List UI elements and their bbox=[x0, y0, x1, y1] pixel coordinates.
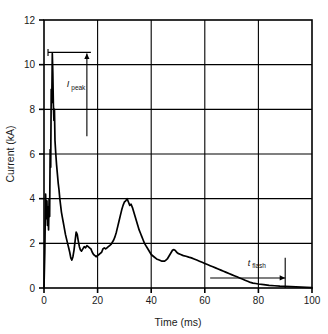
y-tick-label: 4 bbox=[29, 193, 35, 204]
y-tick-label: 10 bbox=[24, 59, 36, 70]
x-tick-label: 60 bbox=[199, 295, 211, 306]
y-tick-label: 8 bbox=[29, 104, 35, 115]
figure-container: 020406080100 024681012 Ipeaktflash Time … bbox=[0, 0, 328, 334]
current-vs-time-chart: 020406080100 024681012 Ipeaktflash Time … bbox=[0, 0, 328, 334]
y-tick-label: 0 bbox=[29, 283, 35, 294]
x-axis-title: Time (ms) bbox=[155, 316, 202, 328]
y-tick-label: 2 bbox=[29, 238, 35, 249]
x-tick-label: 0 bbox=[41, 295, 47, 306]
y-tick-label: 6 bbox=[29, 149, 35, 160]
x-tick-label: 20 bbox=[92, 295, 104, 306]
y-tick-label: 12 bbox=[24, 15, 36, 26]
x-tick-label: 80 bbox=[253, 295, 265, 306]
y-axis-title: Current (kA) bbox=[4, 125, 16, 182]
x-tick-label: 40 bbox=[146, 295, 158, 306]
t-flash-label-subscript: flash bbox=[252, 262, 266, 269]
x-tick-label: 100 bbox=[304, 295, 321, 306]
i-peak-label-subscript: peak bbox=[71, 84, 86, 92]
